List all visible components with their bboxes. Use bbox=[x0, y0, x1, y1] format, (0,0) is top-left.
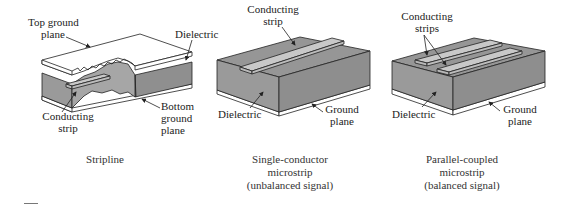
label-top-ground-plane: Top ground plane bbox=[28, 16, 79, 40]
label-conducting-strip: Conducting strip bbox=[238, 3, 308, 27]
label-conducting-strip: Conducting strip bbox=[38, 110, 98, 134]
label-ground-plane: Ground plane bbox=[500, 103, 540, 127]
caption-stripline: Stripline bbox=[60, 153, 150, 166]
label-bottom-ground-plane: Bottom ground plane bbox=[161, 100, 194, 136]
caption-single-conductor-microstrip: Single-conductor microstrip (unbalanced … bbox=[220, 153, 360, 192]
label-dielectric: Dielectric bbox=[392, 108, 435, 120]
label-conducting-strips: Conducting strips bbox=[395, 10, 459, 34]
caption-parallel-coupled-microstrip: Parallel-coupled microstrip (balanced si… bbox=[397, 153, 527, 192]
label-ground-plane: Ground plane bbox=[322, 103, 362, 127]
figure-marker bbox=[24, 203, 38, 204]
label-dielectric: Dielectric bbox=[175, 28, 218, 40]
label-dielectric: Dielectric bbox=[218, 108, 261, 120]
